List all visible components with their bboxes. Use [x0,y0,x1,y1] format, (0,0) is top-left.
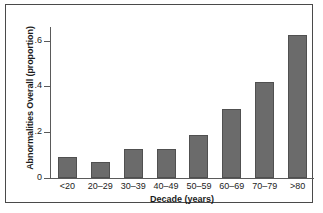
bar [222,109,241,178]
bar [91,162,110,178]
x-tick-label: 50–59 [183,181,216,191]
x-tick-label: 30–39 [117,181,150,191]
y-tick-mark [44,178,50,179]
chart-figure: Abnormalities Overall (proportion) 0.2.4… [0,0,323,213]
y-tick-label: .2 [8,126,42,136]
bar-series [51,27,314,178]
bar [58,157,77,178]
y-tick-label: 0 [8,172,42,182]
x-axis-line [50,178,314,179]
y-tick-label: .4 [8,80,42,90]
x-tick-label: >80 [281,181,314,191]
x-tick-label: 60–69 [215,181,248,191]
y-tick-mark [44,132,50,133]
bar [288,35,307,178]
y-tick-label: .6 [8,35,42,45]
bar [124,149,143,178]
x-tick-label: <20 [51,181,84,191]
x-tick-label: 40–49 [150,181,183,191]
x-tick-label: 70–79 [248,181,281,191]
figure-frame: Abnormalities Overall (proportion) 0.2.4… [5,4,313,203]
bar [255,82,274,178]
bar [157,149,176,178]
y-tick-mark [44,41,50,42]
bar [189,135,208,178]
y-tick-mark [44,86,50,87]
x-tick-label: 20–29 [84,181,117,191]
x-axis-title: Decade (years) [50,194,314,204]
